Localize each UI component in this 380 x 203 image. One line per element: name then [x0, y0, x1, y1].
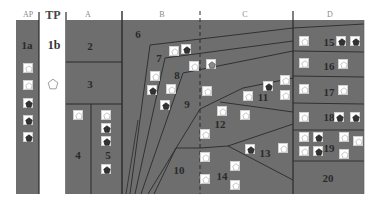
pentagon-filled-icon: [160, 100, 170, 110]
region-label-20: 20: [323, 172, 334, 184]
pentagon-filled-icon: [101, 136, 111, 146]
region-label-17: 17: [324, 86, 335, 98]
pentagon-open-icon: [240, 110, 250, 120]
pentagon-open-icon: [200, 152, 210, 162]
region-label-10: 10: [174, 164, 185, 176]
pentagon-filled-icon: [23, 115, 33, 125]
region-label-2: 2: [87, 40, 93, 52]
pentagon-open-icon: [338, 85, 348, 95]
pentagon-open-icon: [169, 46, 179, 56]
pentagon-filled-icon: [23, 132, 33, 142]
region-label-16: 16: [324, 60, 335, 72]
pentagon-open-icon: [278, 143, 288, 153]
region-label-4: 4: [75, 149, 81, 161]
pentagon-open-icon: [230, 161, 240, 171]
region-label-5: 5: [105, 149, 111, 161]
pentagon-open-icon: [280, 75, 290, 85]
pentagon-open-icon: [189, 61, 199, 71]
column-label-ap: AP: [17, 10, 39, 19]
region-label-18: 18: [324, 111, 335, 123]
region-label-8: 8: [174, 69, 180, 81]
pentagon-open-icon: [353, 136, 363, 146]
region-label-3: 3: [87, 78, 93, 90]
pentagon-open-icon: [166, 84, 176, 94]
pentagon-filled-icon: [101, 123, 111, 133]
pentagon-filled-icon: [101, 164, 111, 174]
region-label-11: 11: [258, 91, 268, 103]
pentagon-filled-icon: [350, 36, 360, 46]
region-label-12: 12: [215, 118, 226, 130]
pentagon-open-icon: [299, 112, 309, 122]
pentagon-open-icon: [200, 174, 210, 184]
pentagon-open-icon: [243, 91, 253, 101]
pentagon-open-icon: [339, 149, 349, 159]
column-label-tp: TP: [41, 8, 65, 23]
pentagon-filled-icon: [147, 85, 157, 95]
pentagon-open-icon: [73, 110, 83, 120]
pentagon-open-icon: [339, 132, 349, 142]
pentagon-filled-icon: [313, 132, 323, 142]
column-label-c: C: [235, 10, 255, 19]
pentagon-filled-icon: [263, 81, 273, 91]
column-label-a: A: [78, 10, 98, 19]
region-label-14: 14: [217, 170, 228, 182]
pentagon-open-icon: [280, 90, 290, 100]
pentagon-open-icon: [217, 106, 227, 116]
region-label-1b: 1b: [48, 38, 61, 53]
pentagon-open-icon: [299, 58, 309, 68]
pentagon-filled-icon: [245, 144, 255, 154]
pentagon-filled-icon: [23, 98, 33, 108]
region-label-19: 19: [324, 142, 335, 154]
pentagon-open-icon: [230, 180, 240, 190]
pentagon-open-icon: [150, 71, 160, 81]
pentagon-filled-icon: [350, 112, 360, 122]
pentagon-open-icon: [47, 76, 59, 88]
pentagon-open-icon: [23, 80, 33, 90]
pentagon-grey-icon: [206, 59, 216, 69]
pentagon-open-icon: [299, 36, 309, 46]
pentagon-open-icon: [299, 146, 309, 156]
pentagon-open-icon: [200, 129, 210, 139]
column-label-b: B: [152, 10, 172, 19]
pentagon-open-icon: [202, 86, 212, 96]
pentagon-filled-icon: [313, 146, 323, 156]
region-label-7: 7: [156, 52, 162, 64]
region-label-13: 13: [260, 147, 271, 159]
region-label-9: 9: [184, 98, 190, 110]
pentagon-open-icon: [101, 110, 111, 120]
pentagon-filled-icon: [334, 112, 344, 122]
pentagon-filled-icon: [336, 36, 346, 46]
pentagon-open-icon: [299, 132, 309, 142]
pentagon-filled-icon: [181, 44, 191, 54]
column-label-d: D: [320, 10, 340, 19]
region-label-6: 6: [135, 28, 141, 40]
pentagon-open-icon: [23, 63, 33, 73]
region-label-1a: 1a: [22, 39, 33, 51]
pentagon-open-icon: [338, 59, 348, 69]
pentagon-open-icon: [299, 84, 309, 94]
region-label-15: 15: [324, 36, 335, 48]
